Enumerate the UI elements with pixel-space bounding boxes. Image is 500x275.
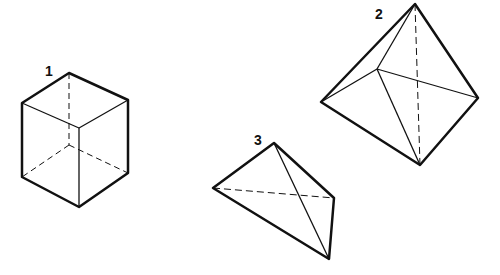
figure-canvas: 1 2 3	[0, 0, 500, 275]
tetrahedron-shape	[213, 143, 334, 259]
shape-label-2: 2	[375, 7, 383, 21]
shape-label-3: 3	[254, 133, 262, 147]
bipyramid-shape	[321, 4, 478, 165]
shape-label-1: 1	[45, 64, 53, 78]
shapes-drawing	[0, 0, 500, 275]
cube-shape	[22, 73, 128, 207]
